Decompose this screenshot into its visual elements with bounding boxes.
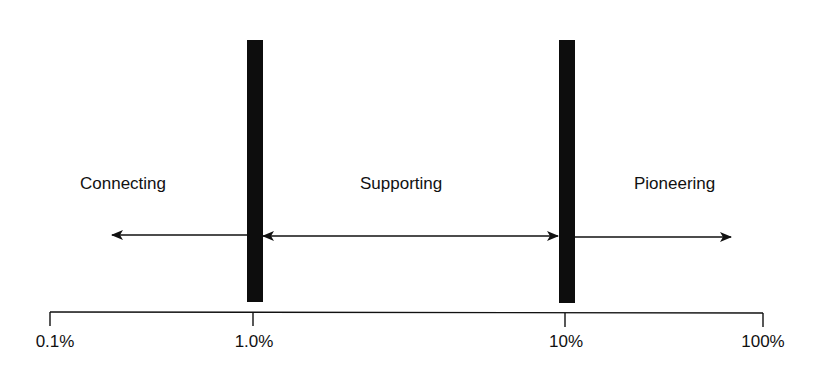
axis-tick-label-0: 0.1% [36,332,75,352]
divider-bar-10-percent [559,40,575,303]
axis-line [50,312,763,313]
region-label-pioneering: Pioneering [634,174,715,194]
axis-tick-label-1: 1.0% [235,332,274,352]
axis-tick-label-2: 10% [549,332,583,352]
region-label-connecting: Connecting [80,174,166,194]
divider-bar-1-percent [247,40,263,302]
region-label-supporting: Supporting [360,174,442,194]
axis-tick-label-3: 100% [741,332,784,352]
